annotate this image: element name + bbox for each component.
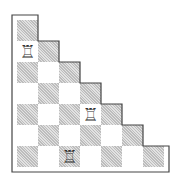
triangular-chessboard: ♖♖♖ — [0, 0, 178, 183]
rook-icon[interactable]: ♖ — [59, 146, 80, 167]
board-border — [0, 0, 178, 183]
rook-icon[interactable]: ♖ — [17, 41, 38, 62]
rook-icon[interactable]: ♖ — [80, 104, 101, 125]
